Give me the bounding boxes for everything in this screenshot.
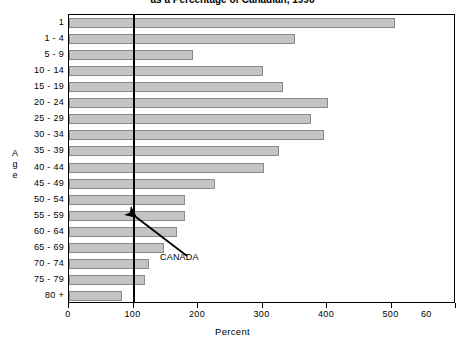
bar-row <box>69 111 456 127</box>
bar <box>69 82 283 92</box>
x-axis-tick-label: 60 <box>421 309 461 319</box>
bar <box>69 114 311 124</box>
y-axis-tick-label: 65 - 69 <box>0 242 64 252</box>
bar-row <box>69 63 456 79</box>
x-axis-tick-label: 100 <box>113 309 153 319</box>
y-axis-tick-label: 70 - 74 <box>0 258 64 268</box>
bar-row <box>69 192 456 208</box>
bar-row <box>69 79 456 95</box>
x-axis-tick <box>391 303 392 308</box>
bar-row <box>69 143 456 159</box>
bar <box>69 259 149 269</box>
bar-row <box>69 176 456 192</box>
x-axis-tick-label: 0 <box>48 309 88 319</box>
y-axis-tick-label: 60 - 64 <box>0 226 64 236</box>
bar-row <box>69 31 456 47</box>
chart-title: as a Percentage of Canadian, 1996 <box>0 0 465 5</box>
x-axis-title: Percent <box>0 326 465 337</box>
y-axis-tick-label: 75 - 79 <box>0 274 64 284</box>
chart-figure: as a Percentage of Canadian, 1996 11 - 4… <box>0 0 465 342</box>
bar <box>69 18 395 28</box>
bar <box>69 195 185 205</box>
y-axis-title-letter: e <box>8 170 22 181</box>
x-axis-tick-label: 200 <box>177 309 217 319</box>
y-axis-title-letter: g <box>8 159 22 170</box>
y-axis-tick-label: 5 - 9 <box>0 49 64 59</box>
x-axis-tick <box>197 303 198 308</box>
bar <box>69 34 295 44</box>
y-axis-title: Age <box>8 148 22 181</box>
y-axis-tick-label: 55 - 59 <box>0 210 64 220</box>
y-axis-title-letter: A <box>8 148 22 159</box>
x-axis-tick <box>326 303 327 308</box>
bar <box>69 98 328 108</box>
bar <box>69 291 122 301</box>
y-axis-tick-label: 10 - 14 <box>0 65 64 75</box>
bar <box>69 146 279 156</box>
y-axis-tick-label: 1 - 4 <box>0 33 64 43</box>
bar-row <box>69 95 456 111</box>
x-axis-tick-label: 400 <box>306 309 346 319</box>
bar-row <box>69 127 456 143</box>
bar-row <box>69 160 456 176</box>
bar-row <box>69 47 456 63</box>
bar <box>69 50 193 60</box>
bar <box>69 66 263 76</box>
y-axis-tick-label: 80 + <box>0 290 64 300</box>
x-axis-tick-label: 500 <box>371 309 411 319</box>
x-axis-tick <box>262 303 263 308</box>
x-axis-tick-label: 300 <box>242 309 282 319</box>
x-axis-tick <box>133 303 134 308</box>
y-axis-tick-label: 50 - 54 <box>0 194 64 204</box>
y-axis-tick-label: 20 - 24 <box>0 97 64 107</box>
x-axis-tick <box>68 303 69 308</box>
y-axis-tick-label: 15 - 19 <box>0 81 64 91</box>
canada-annotation-label: CANADA <box>160 252 199 262</box>
bar <box>69 179 215 189</box>
bar-row <box>69 288 456 304</box>
bar <box>69 163 264 173</box>
bar-row <box>69 15 456 31</box>
y-axis-tick-label: 1 <box>0 17 64 27</box>
y-axis-tick-label: 30 - 34 <box>0 129 64 139</box>
y-axis-tick-label: 25 - 29 <box>0 113 64 123</box>
x-axis-tick <box>455 303 456 308</box>
bar-row <box>69 272 456 288</box>
bar <box>69 130 324 140</box>
